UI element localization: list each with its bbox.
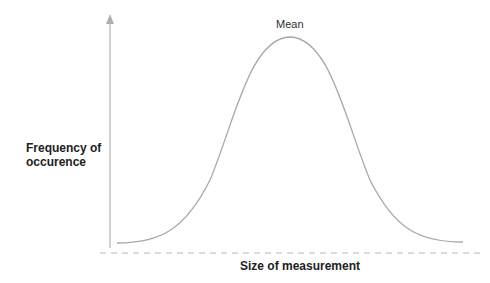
y-axis-label: Frequency of occurence xyxy=(26,141,126,169)
y-axis-label-line2: occurence xyxy=(26,155,126,169)
normal-distribution-curve xyxy=(117,37,463,243)
y-axis-label-line1: Frequency of xyxy=(26,141,126,155)
mean-label: Mean xyxy=(276,18,304,30)
y-axis-arrow-icon xyxy=(106,14,114,24)
x-axis-label: Size of measurement xyxy=(240,259,360,273)
